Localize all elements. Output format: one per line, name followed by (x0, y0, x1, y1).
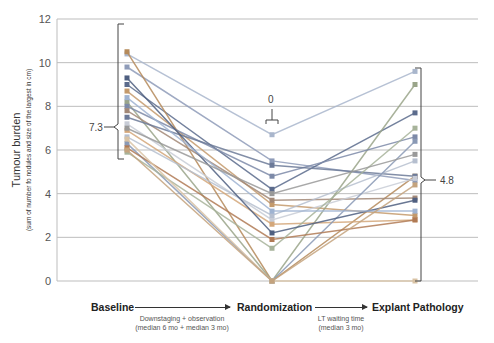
data-point-marker (125, 121, 130, 126)
y-axis-ticks: 024681012 (39, 13, 51, 287)
interval-1-description: Downstaging + observation (median 6 mo +… (132, 314, 232, 332)
baseline-median-bracket (104, 24, 124, 159)
data-point-marker (413, 176, 418, 181)
data-point-marker (125, 82, 130, 87)
patient-lines (125, 49, 418, 283)
data-point-marker (125, 89, 130, 94)
data-point-marker (413, 126, 418, 131)
data-point-marker (270, 246, 275, 251)
data-point-marker (270, 163, 275, 168)
data-point-marker (413, 209, 418, 214)
y-tick-label: 6 (45, 144, 51, 156)
data-point-marker (270, 217, 275, 222)
randomization-median-bracket (266, 109, 278, 124)
data-point-marker (413, 182, 418, 187)
phase-randomization: Randomization (237, 301, 312, 313)
data-point-marker (413, 110, 418, 115)
interval-2-line-1: LT waiting time (312, 314, 370, 323)
y-tick-label: 10 (39, 57, 51, 69)
randomization-median-label: 0 (268, 94, 274, 105)
data-point-marker (270, 222, 275, 227)
interval-1-line-1: Downstaging + observation (132, 314, 232, 323)
data-point-marker (413, 134, 418, 139)
data-point-marker (270, 237, 275, 242)
data-point-marker (125, 137, 130, 142)
data-point-marker (270, 202, 275, 207)
y-axis-label: Tumour burden (10, 113, 22, 188)
interval-2-line-2: (median 3 mo) (312, 323, 370, 332)
gridlines (57, 19, 478, 281)
data-point-marker (270, 191, 275, 196)
y-tick-label: 2 (45, 231, 51, 243)
data-point-marker (270, 174, 275, 179)
data-point-marker (125, 49, 130, 54)
data-point-marker (270, 209, 275, 214)
data-point-marker (270, 213, 275, 218)
data-point-marker (125, 126, 130, 131)
data-point-marker (125, 104, 130, 109)
data-point-marker (413, 82, 418, 87)
data-point-marker (270, 187, 275, 192)
data-point-marker (125, 108, 130, 113)
y-tick-label: 0 (45, 275, 51, 287)
data-point-marker (413, 217, 418, 222)
data-point-marker (270, 198, 275, 203)
baseline-median-label: 7.3 (89, 122, 103, 133)
data-point-marker (413, 139, 418, 144)
data-point-marker (270, 230, 275, 235)
data-point-marker (413, 158, 418, 163)
data-point-marker (413, 152, 418, 157)
interval-2-description: LT waiting time (median 3 mo) (312, 314, 370, 332)
data-point-marker (413, 213, 418, 218)
data-point-marker (125, 115, 130, 120)
data-point-marker (125, 99, 130, 104)
data-point-marker (270, 132, 275, 137)
data-point-marker (413, 69, 418, 74)
phase-baseline: Baseline (91, 301, 134, 313)
data-point-marker (270, 158, 275, 163)
data-point-marker (125, 95, 130, 100)
data-point-marker (125, 65, 130, 70)
arrow-1 (135, 307, 230, 308)
y-tick-label: 4 (45, 188, 51, 200)
phase-explant-pathology: Explant Pathology (372, 301, 464, 313)
data-point-marker (125, 148, 130, 153)
data-point-marker (270, 279, 275, 284)
interval-1-line-2: (median 6 mo + median 3 mo) (132, 323, 232, 332)
tumour-burden-chart: 024681012 Tumour burden (sum of number f… (0, 0, 494, 295)
y-axis-sublabel: (sum of number fo nodules and size of th… (25, 69, 33, 231)
explant-median-bracket (415, 68, 436, 281)
y-tick-label: 8 (45, 100, 51, 112)
data-point-marker (125, 75, 130, 80)
arrow-2 (315, 307, 367, 308)
y-tick-label: 12 (39, 13, 51, 25)
explant-median-label: 4.8 (440, 175, 454, 186)
data-point-marker (413, 198, 418, 203)
